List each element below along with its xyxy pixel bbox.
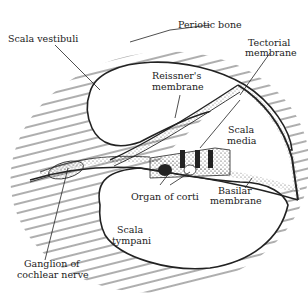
label-ganglion-1: Ganglion of — [24, 258, 81, 269]
label-organ-of-corti: Organ of corti — [131, 191, 199, 202]
cochlea-diagram: Periotic bone Scala vestibuli Tectorial … — [0, 0, 308, 300]
label-scala-vestibuli: Scala vestibuli — [8, 33, 78, 44]
label-reissners-membrane-2: membrane — [152, 81, 204, 92]
label-basilar-membrane-2: membrane — [210, 195, 262, 206]
label-scala-media-2: media — [227, 135, 257, 146]
label-scala-media-1: Scala — [228, 124, 255, 135]
label-ganglion-2: cochlear nerve — [17, 269, 89, 280]
label-scala-tympani-1: Scala — [117, 224, 144, 235]
label-scala-tympani-2: tympani — [112, 235, 151, 246]
label-tectorial-membrane-2: membrane — [245, 47, 297, 58]
label-reissners-membrane-1: Reissner's — [152, 70, 201, 81]
label-periotic-bone: Periotic bone — [178, 19, 242, 30]
